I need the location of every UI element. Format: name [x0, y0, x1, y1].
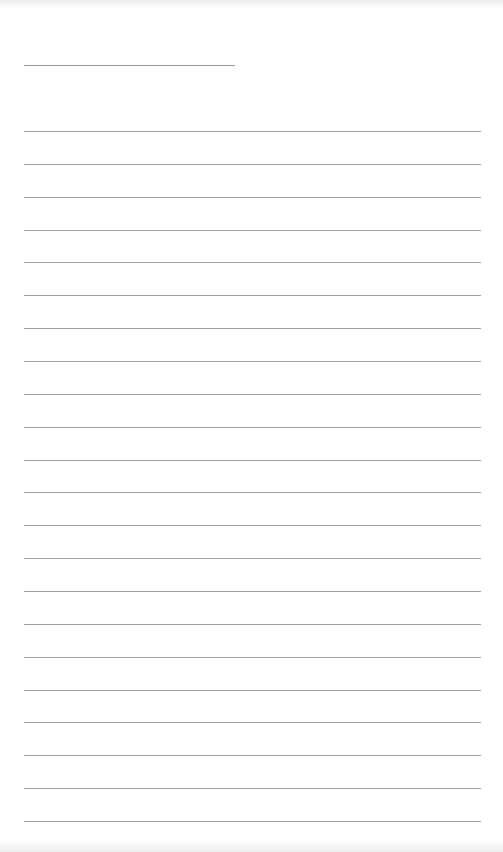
ruled-line: [24, 558, 481, 559]
ruled-line: [24, 788, 481, 789]
ruled-line: [24, 525, 481, 526]
ruled-line: [24, 591, 481, 592]
ruled-line: [24, 295, 481, 296]
ruled-line: [24, 492, 481, 493]
ruled-line: [24, 624, 481, 625]
ruled-line: [24, 328, 481, 329]
ruled-line: [24, 657, 481, 658]
ruled-line: [24, 394, 481, 395]
ruled-line: [24, 460, 481, 461]
ruled-line: [24, 197, 481, 198]
ruled-line: [24, 755, 481, 756]
ruled-line: [24, 427, 481, 428]
ruled-line: [24, 131, 481, 132]
ruled-line: [24, 361, 481, 362]
ruled-line: [24, 164, 481, 165]
page-bottom-edge: [0, 840, 503, 852]
title-line: [24, 65, 235, 66]
ruled-line: [24, 821, 481, 822]
page-top-edge: [0, 0, 503, 8]
ruled-line: [24, 722, 481, 723]
ruled-line: [24, 690, 481, 691]
ruled-line: [24, 262, 481, 263]
ruled-line: [24, 230, 481, 231]
